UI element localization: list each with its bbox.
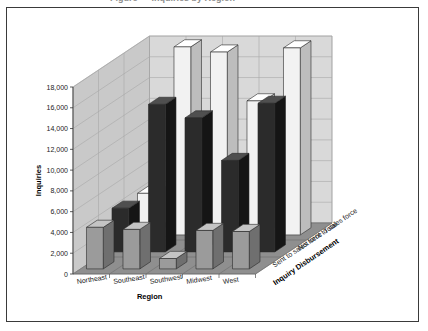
bar-west-not-sent-to-sales-force-side — [275, 96, 286, 252]
bar-west-total[interactable] — [283, 48, 300, 235]
chart-frame: 02,0004,0006,0008,00010,00012,00014,0001… — [6, 7, 419, 322]
page-title: Figure — Inquiries by Region — [110, 0, 235, 3]
x-axis-title: Region — [137, 292, 163, 301]
bar-southeast-sent-to-sales-force[interactable] — [123, 229, 140, 268]
y-tick-label-16000: 16,000 — [47, 104, 69, 111]
x-label-southeast: Southeast — [113, 273, 145, 285]
y-tick-label-0: 0 — [64, 271, 68, 278]
y-tick-label-4000: 4,000 — [50, 229, 68, 236]
y-tick-label-8000: 8,000 — [50, 187, 68, 194]
bar-west-sent-to-sales-force-side — [249, 224, 260, 269]
x-label-southwest: Southwest — [149, 273, 182, 285]
bar-chart-3d: 02,0004,0006,0008,00010,00012,00014,0001… — [7, 8, 420, 323]
bar-southwest-sent-to-sales-force[interactable] — [159, 259, 176, 269]
x-label-northeast: Northeast — [76, 273, 107, 285]
chart-stage: 02,0004,0006,0008,00010,00012,00014,0001… — [7, 8, 420, 323]
bar-west-not-sent-to-sales-force[interactable] — [258, 103, 275, 252]
title-strip: Figure — Inquiries by Region — [0, 0, 428, 6]
bar-northeast-sent-to-sales-force-side — [103, 220, 114, 269]
bar-southeast-not-sent-to-sales-force-side — [165, 97, 176, 252]
bar-southeast-sent-to-sales-force-side — [140, 222, 151, 269]
x-label-midwest: Midwest — [186, 274, 213, 285]
y-axis-title: Inquiries — [34, 165, 43, 196]
x-label-west: West — [222, 276, 239, 285]
bar-midwest-sent-to-sales-force[interactable] — [196, 230, 213, 268]
bar-west-total-side — [300, 41, 311, 235]
y-tick-label-6000: 6,000 — [50, 208, 68, 215]
bar-southeast-not-sent-to-sales-force[interactable] — [148, 104, 165, 252]
y-tick-label-10000: 10,000 — [47, 167, 69, 174]
y-tick-label-2000: 2,000 — [50, 250, 68, 257]
bar-midwest-sent-to-sales-force-side — [213, 223, 224, 269]
y-tick-label-12000: 12,000 — [47, 146, 69, 153]
y-tick-label-14000: 14,000 — [47, 125, 69, 132]
bar-west-sent-to-sales-force[interactable] — [232, 232, 249, 269]
bar-northeast-sent-to-sales-force[interactable] — [86, 227, 103, 269]
y-tick-label-18000: 18,000 — [47, 84, 69, 91]
